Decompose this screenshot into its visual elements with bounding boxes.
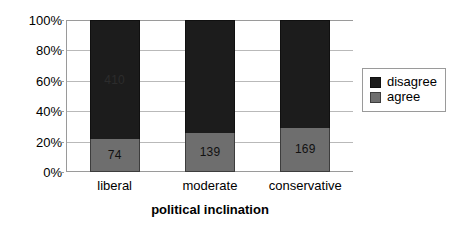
bar-value-label: 139	[200, 146, 221, 158]
x-axis-labels: liberal moderate conservative	[67, 178, 353, 193]
gray-swatch-icon	[370, 92, 381, 103]
x-tick-label-moderate: moderate	[168, 178, 252, 193]
y-tick-label: 60%	[4, 75, 62, 88]
bar-segment-disagree	[185, 20, 235, 133]
bar-moderate: 139	[185, 20, 235, 172]
bar-segment-agree: 139	[185, 133, 235, 172]
bar-segment-agree: 74	[90, 139, 140, 172]
bar-value-label: 410	[104, 74, 125, 86]
bar-value-label: 74	[108, 149, 122, 161]
bar-value-label: 169	[295, 143, 316, 155]
y-tick-mark	[58, 50, 64, 51]
bar-conservative: 169	[280, 20, 330, 172]
y-tick-mark	[58, 81, 64, 82]
legend-label: agree	[387, 90, 420, 104]
y-tick-label: 0%	[4, 166, 62, 179]
bar-group: 410 74 139 169	[67, 20, 353, 172]
x-tick-label-conservative: conservative	[263, 178, 347, 193]
legend-item-agree: agree	[370, 90, 437, 104]
x-tick-label-liberal: liberal	[73, 178, 157, 193]
y-tick-mark	[58, 111, 64, 112]
x-axis-title: political inclination	[67, 202, 353, 217]
chart-legend: disagree agree	[362, 68, 446, 112]
legend-label: disagree	[387, 75, 437, 89]
bar-segment-disagree: 410	[90, 20, 140, 139]
y-tick-label: 80%	[4, 44, 62, 57]
legend-item-disagree: disagree	[370, 75, 437, 89]
y-tick-label: 20%	[4, 136, 62, 149]
dark-swatch-icon	[370, 77, 381, 88]
stacked-bar-chart: 0% 20% 40% 60% 80% 100% 410 74	[0, 0, 476, 235]
bar-liberal: 410 74	[90, 20, 140, 172]
bar-segment-disagree	[280, 20, 330, 128]
y-tick-label: 100%	[4, 14, 62, 27]
bar-segment-agree: 169	[280, 128, 330, 172]
y-tick-mark	[58, 142, 64, 143]
y-axis: 0% 20% 40% 60% 80% 100%	[0, 20, 62, 172]
y-tick-label: 40%	[4, 105, 62, 118]
y-tick-mark	[58, 172, 64, 173]
y-tick-mark	[58, 20, 64, 21]
